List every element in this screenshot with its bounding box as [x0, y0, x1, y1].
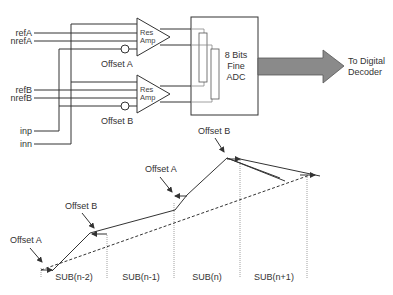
annotation-offset-a-2: Offset A [145, 164, 177, 174]
input-label-nrefB: nrefB [10, 93, 32, 103]
res-amp-a: Res Amp Offset A [101, 18, 170, 69]
segment-sub-n: SUB(n) [192, 272, 222, 282]
svg-text:Amp: Amp [140, 36, 155, 45]
annotation-offset-b-2: Offset B [198, 126, 230, 136]
transfer-plot: Offset A Offset B Offset A Offset B SUB(… [10, 126, 320, 282]
input-label-inp: inp [20, 126, 32, 136]
svg-text:ADC: ADC [226, 72, 246, 82]
segment-sub-n-1: SUB(n-1) [122, 272, 160, 282]
svg-text:Fine: Fine [227, 61, 245, 71]
offset-b-source-icon [121, 102, 129, 110]
svg-text:8 Bits: 8 Bits [225, 50, 248, 60]
segment-sub-n-2: SUB(n-2) [55, 272, 93, 282]
offset-b-label: Offset B [101, 116, 133, 126]
annotation-offset-b-1: Offset B [65, 201, 97, 211]
res-amp-b: Res Amp Offset B [101, 75, 170, 126]
diagram-canvas: refA nrefA refB nrefB inp inn Res Amp Of… [0, 0, 393, 295]
input-label-inn: inn [20, 139, 32, 149]
svg-text:Amp: Amp [140, 93, 155, 102]
output-label-line1: To Digital [348, 56, 385, 66]
segment-sub-n-plus-1: SUB(n+1) [254, 272, 294, 282]
fine-adc-block: 8 Bits Fine ADC [191, 17, 258, 115]
offset-a-label: Offset A [101, 59, 133, 69]
annotation-offset-a-1: Offset A [10, 235, 42, 245]
offset-a-source-icon [121, 45, 129, 53]
output-label-line2: Decoder [348, 67, 382, 77]
input-label-nrefA: nrefA [10, 36, 32, 46]
output-arrow-icon [258, 50, 344, 83]
input-wires [34, 24, 137, 144]
